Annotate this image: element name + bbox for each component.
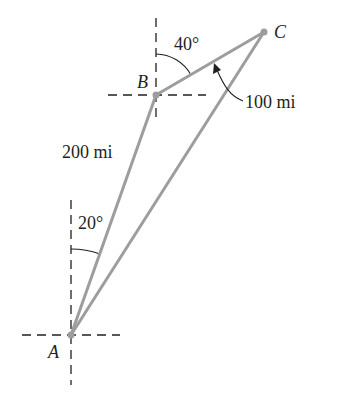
angle-arc-b: [156, 54, 191, 75]
angle-label-b: 40°: [174, 34, 199, 54]
axes-b: [108, 18, 206, 118]
diagram-svg: C B A 40° 20° 100 mi 200 mi: [0, 0, 337, 396]
segments: [71, 32, 264, 335]
label-a: A: [47, 342, 60, 362]
axes-a: [22, 200, 120, 385]
arrow-head-icon: [213, 63, 221, 74]
point-b: [153, 92, 160, 99]
point-a: [68, 332, 75, 339]
point-c: [261, 29, 268, 36]
label-b: B: [137, 72, 148, 92]
segment-bc: [156, 32, 264, 95]
label-bc-distance: 100 mi: [245, 92, 296, 112]
segment-ac: [71, 32, 264, 335]
angle-label-a: 20°: [78, 213, 103, 233]
label-ab-distance: 200 mi: [62, 142, 113, 162]
label-c: C: [274, 22, 287, 42]
vector-diagram: C B A 40° 20° 100 mi 200 mi: [0, 0, 337, 396]
angle-arc-a: [71, 249, 100, 254]
